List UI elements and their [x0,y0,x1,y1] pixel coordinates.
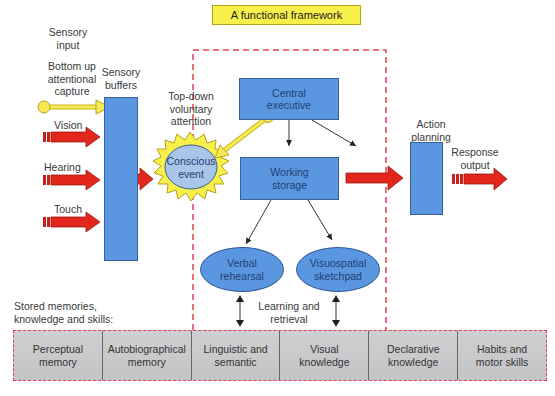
label-line: Stored memories, [14,300,113,313]
memory-linguistic: Linguistic andsemantic [192,331,281,380]
response-output-arrow [452,168,507,190]
label-line: Visual [299,343,349,356]
bidirectional-arrow-visuospatial [332,295,340,327]
vision-label: Vision [54,119,82,132]
label-line: Linguistic and [203,343,267,356]
label-line: Perceptual [33,343,83,356]
bidirectional-arrow-verbal [236,295,244,327]
sensory-buffers-label: Sensory buffers [98,66,144,91]
label-line: memory [33,356,83,369]
label-line: buffers [98,79,144,92]
label-line: capture [42,85,102,98]
label-line: Habits and [476,343,529,356]
memory-habits: Habits andmotor skills [458,331,546,380]
label-line: rehearsal [220,270,264,283]
label-line: Response [450,146,500,159]
label-line: Action [406,118,456,131]
hearing-label: Hearing [44,161,81,174]
label-line: Autobiographical [108,343,186,356]
label-line: event [164,168,218,181]
label-line: voluntary [168,103,214,116]
label-line: knowledge [299,356,349,369]
label-line: knowledge [387,356,440,369]
label-line: sketchpad [314,270,362,283]
bottom-up-label: Bottom up attentional capture [42,60,102,98]
label-line: Conscious [164,155,218,168]
sensory-input-label: Sensory input [44,26,92,51]
label-line: attentional [42,73,102,86]
label-line: knowledge and skills: [14,313,113,326]
label-line: Working [270,166,308,179]
label-line: input [44,39,92,52]
action-planning-label: Action planning [406,118,456,143]
stored-memories-label: Stored memories, knowledge and skills: [14,300,113,325]
working-storage-box: Working storage [240,157,339,200]
top-down-label: Top-down voluntary attention [168,90,214,128]
label-line: Visuospatial [310,257,366,270]
label-line: retrieval [254,313,324,326]
sensory-buffers-box [104,97,138,261]
label-line: Verbal [227,257,257,270]
learning-retrieval-label: Learning and retrieval [254,300,324,325]
label-line: storage [272,179,307,192]
label-line: semantic [203,356,267,369]
memory-declarative: Declarativeknowledge [369,331,458,380]
conscious-event-label: Conscious event [164,155,218,180]
label-line: Sensory [98,66,144,79]
label-line: Learning and [254,300,324,313]
memory-visual: Visualknowledge [280,331,369,380]
label-line: Declarative [387,343,440,356]
label-line: memory [108,356,186,369]
action-planning-box [410,142,443,215]
response-output-label: Response output [450,146,500,171]
working-to-action-arrow [346,166,403,190]
label-line: motor skills [476,356,529,369]
visuospatial-sketchpad-ellipse: Visuospatial sketchpad [296,247,380,292]
memory-perceptual: Perceptualmemory [14,331,103,380]
label-line: executive [267,99,311,112]
memory-autobiographical: Autobiographicalmemory [103,331,192,380]
bottom-up-arrow [38,100,110,114]
label-line: attention [168,115,214,128]
label-line: Sensory [44,26,92,39]
label-line: Central [272,87,306,100]
stored-memories-row: Perceptualmemory Autobiographicalmemory … [13,330,547,381]
touch-label: Touch [54,203,82,216]
label-line: output [450,159,500,172]
central-executive-box: Central executive [239,78,339,120]
label-line: Bottom up [42,60,102,73]
label-line: Top-down [168,90,214,103]
verbal-rehearsal-ellipse: Verbal rehearsal [200,247,284,292]
